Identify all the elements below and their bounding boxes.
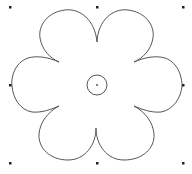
flower-drawing <box>0 0 192 174</box>
drawing-canvas[interactable] <box>0 0 192 174</box>
resize-handle-top-right[interactable] <box>182 6 185 9</box>
center-point <box>96 84 98 86</box>
resize-handle-top-center[interactable] <box>96 6 99 9</box>
resize-handle-top-left[interactable] <box>9 6 12 9</box>
resize-handle-middle-right[interactable] <box>182 84 185 87</box>
resize-handle-bottom-right[interactable] <box>182 162 185 165</box>
resize-handle-bottom-left[interactable] <box>9 162 12 165</box>
resize-handle-bottom-center[interactable] <box>96 162 99 165</box>
resize-handle-middle-left[interactable] <box>9 84 12 87</box>
